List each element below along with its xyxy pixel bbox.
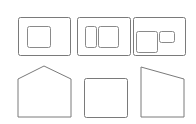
layout-single-frame-option[interactable] (18, 17, 71, 56)
layout-frame-plus-small-option[interactable] (133, 17, 186, 56)
shape-flat-option[interactable] (85, 79, 128, 118)
shape-shed-option[interactable] (141, 67, 184, 117)
shape-gable-icon (18, 66, 71, 117)
shape-flat-icon (85, 79, 128, 118)
shape-gable-option[interactable] (18, 66, 71, 117)
shape-shed-icon (141, 67, 184, 117)
layout-two-frames-option[interactable] (77, 17, 131, 56)
shape-picker-canvas (0, 0, 196, 124)
